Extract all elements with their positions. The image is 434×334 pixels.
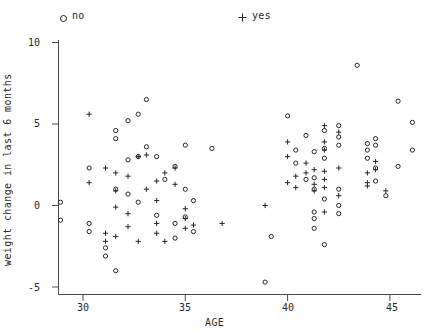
legend-marker-no (60, 15, 67, 22)
data-points-no (58, 63, 414, 284)
y-tick-label-5: 5 (18, 118, 40, 129)
x-tick-label-30: 30 (72, 302, 94, 313)
data-points-yes (87, 112, 389, 244)
x-tick-label-45: 45 (381, 302, 403, 313)
y-tick-label-0: 0 (18, 200, 40, 211)
axis-ticks (52, 43, 390, 302)
x-tick-label-35: 35 (174, 302, 196, 313)
scatter-plot-figure: no yes weight change in last 6 months 10… (0, 0, 434, 334)
legend-label-no: no (72, 10, 85, 21)
x-axis-title: AGE (205, 317, 224, 328)
legend-marker-yes (238, 13, 247, 22)
y-tick-label-10: 10 (18, 37, 40, 48)
x-tick-label-40: 40 (277, 302, 299, 313)
axis-lines (59, 40, 422, 295)
y-tick-label-minus5: -5 (14, 282, 40, 293)
plot-canvas (0, 0, 434, 334)
legend-label-yes: yes (252, 10, 271, 21)
y-axis-title: weight change in last 6 months (2, 60, 18, 280)
